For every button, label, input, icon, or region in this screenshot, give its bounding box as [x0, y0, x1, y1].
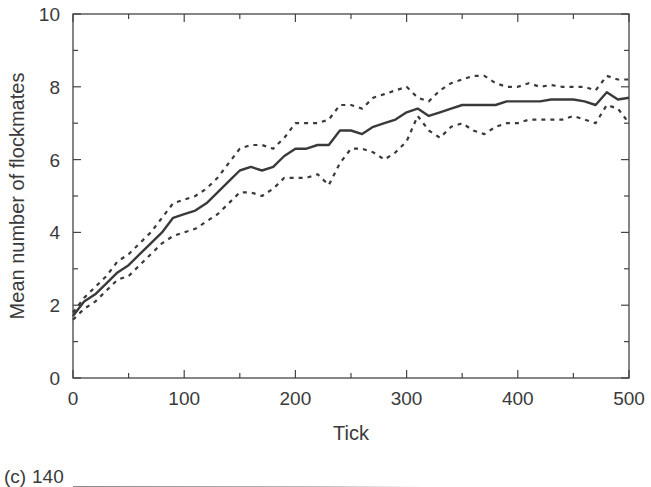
y-tick-labels: 0246810 [39, 4, 61, 389]
next-panel-tick-label: 140 [32, 466, 64, 487]
plot-frame [73, 14, 629, 378]
y-tick-label: 8 [49, 77, 60, 98]
x-tick-label: 500 [613, 388, 645, 409]
x-tick-label: 100 [168, 388, 200, 409]
upper-bound-line [73, 76, 629, 313]
next-panel-label: (c) [4, 466, 26, 487]
y-tick-label: 4 [49, 222, 60, 243]
y-tick-label: 10 [39, 4, 60, 25]
mean-line [73, 92, 629, 316]
x-tick-labels: 0100200300400500 [68, 388, 645, 409]
data-series [73, 76, 629, 320]
y-axis-label: Mean number of flockmates [6, 73, 28, 320]
y-tick-label: 2 [49, 295, 60, 316]
x-tick-label: 0 [68, 388, 79, 409]
line-chart: 0100200300400500 0246810 Tick Mean numbe… [0, 0, 651, 487]
x-tick-label: 200 [280, 388, 312, 409]
y-tick-label: 0 [49, 368, 60, 389]
y-tick-label: 6 [49, 150, 60, 171]
lower-bound-line [73, 105, 629, 320]
x-tick-label: 300 [391, 388, 423, 409]
axis-ticks [73, 14, 629, 378]
x-tick-label: 400 [502, 388, 534, 409]
x-axis-label: Tick [333, 422, 370, 444]
